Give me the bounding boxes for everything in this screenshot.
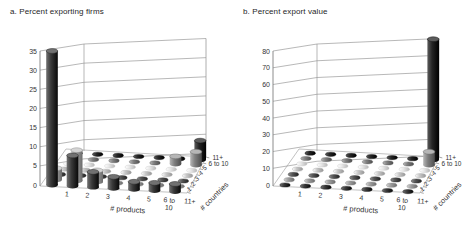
x-tick-label: 11+ xyxy=(184,197,196,205)
floor-disc-p2-c5 xyxy=(317,163,327,167)
floor-disc-p1-c5 xyxy=(297,162,307,166)
chart-b-plot: 01020304050607080123456 to 1011+123456 t… xyxy=(233,0,466,237)
floor-disc-p7-c1 xyxy=(403,190,413,194)
floor-disc-p3-c6 xyxy=(109,159,119,163)
y-tick-label: 10 xyxy=(29,143,37,150)
floor-disc-p2-c7 xyxy=(93,152,103,156)
y-tick-label: 0 xyxy=(266,182,270,189)
floor-disc-p6-c2 xyxy=(387,183,397,187)
floor-disc-p2-c2 xyxy=(305,179,315,183)
y-tick-label: 70 xyxy=(262,64,270,71)
bar-p7-c6-top xyxy=(190,149,202,154)
floor-disc-p1-c1 xyxy=(280,183,290,187)
floor-disc-p7-c4 xyxy=(182,174,192,178)
y-tick-label: 30 xyxy=(262,131,270,138)
x-tick-label: 5 xyxy=(147,195,152,202)
floor-disc-p3-c3 xyxy=(329,175,339,179)
floor-disc-p7-c4 xyxy=(415,174,425,178)
floor-disc-p4-c1 xyxy=(341,186,351,190)
bar-p6-c1-top xyxy=(149,180,161,185)
floor-disc-p4-c5 xyxy=(125,165,135,169)
depth-tick-label: 11+ xyxy=(212,154,223,161)
gridline xyxy=(40,39,206,52)
floor-disc-p1-c6 xyxy=(301,156,311,160)
bar-p2-c1-top xyxy=(67,153,79,158)
floor-disc-p1-c3 xyxy=(288,172,298,176)
y-tick-label: 40 xyxy=(262,115,270,122)
y-tick-label: 10 xyxy=(262,165,270,172)
x-tick-label: 2 xyxy=(318,192,323,199)
figure-canvas: a. Percent exporting firms 0510152025303… xyxy=(0,0,466,237)
x-tick-label: 3 xyxy=(339,193,344,200)
y-tick-label: 35 xyxy=(29,48,37,55)
floor-disc-p4-c4 xyxy=(121,170,131,174)
floor-disc-p4-c6 xyxy=(129,160,139,164)
floor-disc-p2-c3 xyxy=(309,173,319,177)
gridline xyxy=(40,134,206,147)
floor-disc-p1-c4 xyxy=(292,167,302,171)
floor-disc-p4-c7 xyxy=(367,154,377,158)
bar-p2-c1 xyxy=(67,155,79,186)
floor-disc-p5-c3 xyxy=(370,177,380,181)
bar-p7-c7-top xyxy=(427,37,439,42)
floor-disc-p3-c7 xyxy=(346,153,356,157)
floor-disc-p4-c2 xyxy=(346,181,356,185)
bar-p4-c1-top xyxy=(108,174,120,179)
floor-disc-p2-c6 xyxy=(321,158,331,162)
gridline xyxy=(40,58,206,71)
x-tick-label: 5 xyxy=(380,195,385,202)
floor-disc-p5-c4 xyxy=(374,171,384,175)
x-tick-label: 1 xyxy=(298,190,303,197)
floor-disc-p5-c4 xyxy=(141,171,151,175)
depth-tick-label: 11+ xyxy=(445,154,456,161)
floor-disc-p3-c1 xyxy=(321,185,331,189)
floor-disc-p2-c6 xyxy=(88,158,98,162)
floor-disc-p4-c6 xyxy=(362,160,372,164)
gridline xyxy=(273,55,439,68)
gridline xyxy=(273,72,439,85)
depth-axis-title: # countries xyxy=(198,180,230,212)
floor-disc-p6-c1 xyxy=(382,188,392,192)
gridline xyxy=(273,39,439,52)
y-tick-label: 30 xyxy=(29,67,37,74)
floor-disc-p5-c5 xyxy=(379,166,389,170)
x-tick-label: 1 xyxy=(65,190,70,197)
chart-a: a. Percent exporting firms 0510152025303… xyxy=(0,0,233,237)
y-tick-label: 20 xyxy=(262,148,270,155)
bar-p6-c6-top xyxy=(170,154,182,159)
chart-b: b. Percent export value 0102030405060708… xyxy=(233,0,466,237)
floor-disc-p5-c5 xyxy=(146,166,156,170)
floor-disc-p6-c4 xyxy=(162,173,172,177)
floor-disc-p6-c4 xyxy=(395,173,405,177)
gridline xyxy=(273,89,439,102)
floor-disc-p3-c5 xyxy=(338,164,348,168)
x-tick-label: 6 to10 xyxy=(163,196,176,211)
depth-tick-label: 5 xyxy=(201,164,208,172)
floor-disc-p2-c1 xyxy=(300,184,310,188)
gridline xyxy=(273,122,439,135)
bar-p1-c1 xyxy=(46,51,58,185)
floor-disc-p4-c3 xyxy=(350,176,360,180)
chart-a-plot: 05101520253035123456 to 1011+123456 to10… xyxy=(0,0,233,237)
x-axis-title: # products xyxy=(110,204,146,215)
bar-p3-c1-top xyxy=(87,169,99,174)
bar-p5-c1-top xyxy=(128,179,140,184)
depth-tick xyxy=(206,157,209,158)
gridline xyxy=(273,139,439,152)
floor-disc-p5-c1 xyxy=(362,187,372,191)
floor-disc-p7-c5 xyxy=(420,168,430,172)
floor-disc-p4-c7 xyxy=(134,154,144,158)
floor-disc-p3-c2 xyxy=(325,180,335,184)
bar-p7-c6-top xyxy=(423,149,435,154)
floor-disc-p7-c2 xyxy=(407,184,417,188)
y-tick-label: 15 xyxy=(29,124,37,131)
gridline xyxy=(40,77,206,90)
floor-disc-p3-c6 xyxy=(342,159,352,163)
y-tick-label: 20 xyxy=(29,105,37,112)
floor-disc-p5-c7 xyxy=(154,156,164,160)
floor-disc-p7-c3 xyxy=(411,179,421,183)
depth-tick-label: 5 xyxy=(434,164,441,172)
bar-p7-c1-top xyxy=(169,182,181,187)
x-tick-label: 4 xyxy=(359,194,364,201)
x-tick-label: 3 xyxy=(106,193,111,200)
